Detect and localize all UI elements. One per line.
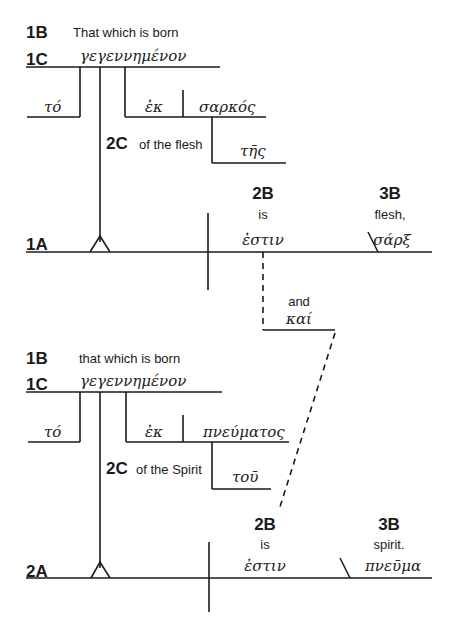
greek-verb: ἐστιν [242,233,284,248]
gloss-2c: of the flesh [139,138,203,151]
greek-verb-2: ἐστιν [244,559,286,574]
label-1c-2: 1C [26,376,48,393]
label-3b: 3B [379,185,401,202]
conj-dashed-diagonal [279,333,335,510]
label-2b-2: 2B [254,516,276,533]
gloss-3b-2: spirit. [373,538,404,551]
label-2c: 2C [106,135,128,152]
label-1b: 1B [26,24,48,41]
gloss-2c-2: of the Spirit [136,463,202,476]
greek-prep-object: σαρκός [199,100,255,115]
gloss-2b-2: is [260,538,269,551]
gloss-1b: That which is born [73,26,179,39]
greek-participle-2: γεγεννημένον [80,374,186,389]
gloss-1b-2: that which is born [79,352,180,365]
label-3b-2: 3B [378,516,400,533]
gloss-3b: flesh, [374,208,405,221]
greek-modifier: τῆς [240,144,266,159]
greek-preposition: ἐκ [145,100,163,115]
label-1b-2: 1B [26,350,48,367]
greek-conjunction: καί [286,312,312,327]
label-2c-2: 2C [106,460,128,477]
label-2a: 2A [26,563,48,580]
greek-complement: σάρξ [373,233,410,248]
label-2b: 2B [252,185,274,202]
greek-modifier-2: τοῦ [232,470,258,485]
greek-prep-object-2: πνεύματος [203,425,285,440]
label-1a: 1A [26,236,48,253]
label-1c: 1C [26,51,48,68]
greek-article-2: τό [44,425,61,440]
greek-preposition-2: ἐκ [145,425,163,440]
gloss-2b: is [258,208,267,221]
greek-article: τό [44,100,61,115]
greek-complement-2: πνεῦμα [365,559,421,574]
complement-slash-2 [340,558,350,578]
greek-participle: γεγεννημένον [80,49,186,64]
gloss-conjunction: and [288,295,310,308]
